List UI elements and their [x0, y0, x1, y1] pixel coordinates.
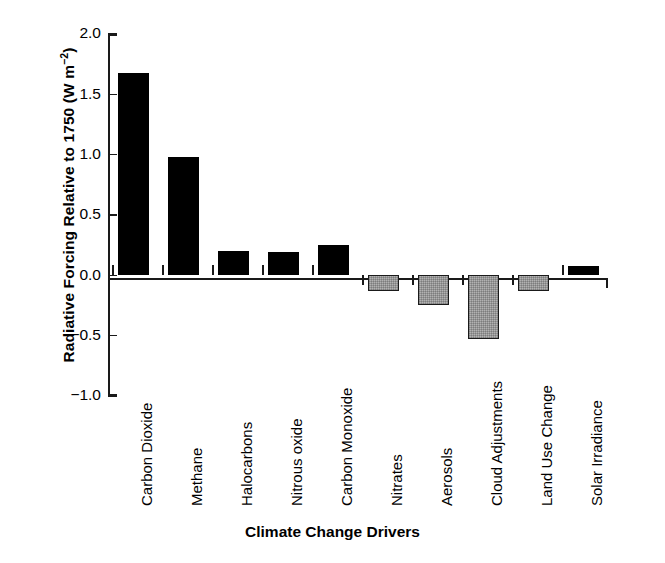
bar-carbon-monoxide: [318, 245, 349, 275]
bar-land-use-change: [518, 275, 549, 291]
y-axis-tick: 2.0: [108, 33, 117, 35]
x-axis-tick-label: Carbon Dioxide: [139, 403, 154, 506]
y-axis-tick-label: 1.0: [41, 143, 101, 165]
x-axis-tick: [412, 275, 414, 285]
chart-figure: Radiative Forcing Relative to 1750 (W m−…: [0, 0, 665, 563]
x-axis-tick: [362, 275, 364, 285]
x-axis-tick: [312, 265, 314, 275]
x-axis-tick-label: Halocarbons: [239, 422, 254, 506]
x-axis-tick: [262, 265, 264, 275]
x-axis-tick-label: Solar Irradiance: [589, 400, 604, 506]
y-axis-title-exponent: −2: [58, 53, 70, 65]
x-axis-tick-label: Nitrates: [389, 454, 404, 506]
y-axis-tick: 1.0: [108, 154, 117, 156]
bar-cloud-adjustments: [468, 275, 499, 339]
bar-halocarbons: [218, 251, 249, 275]
x-axis-tick-label: Nitrous oxide: [289, 418, 304, 506]
x-axis-tick: [462, 275, 464, 285]
bar-methane: [168, 157, 199, 275]
x-axis-tick-label: Carbon Monoxide: [339, 388, 354, 506]
y-axis-tick-label: 1.5: [41, 83, 101, 105]
y-axis-tick: −1.0: [108, 395, 117, 397]
y-axis-tick: 1.5: [108, 94, 117, 96]
y-axis-tick-label: −1.0: [41, 384, 101, 406]
x-axis-tick: [562, 265, 564, 275]
x-axis-tick: [512, 275, 514, 285]
bar-aerosols: [418, 275, 449, 305]
plot-area: 2.01.51.00.50.0−0.5−1.0 Carbon DioxideMe…: [108, 34, 608, 396]
x-axis-tick-label: Aerosols: [439, 448, 454, 506]
x-axis-tick-label: Cloud Adjustments: [489, 381, 504, 506]
x-axis-right-cap: [606, 278, 608, 288]
bar-nitrous-oxide: [268, 252, 299, 275]
bar-nitrates: [368, 275, 399, 291]
bar-solar-irradiance: [568, 266, 599, 276]
x-axis-tick: [212, 265, 214, 275]
x-axis-tick: [112, 265, 114, 275]
y-axis-tick: −0.5: [108, 335, 117, 337]
y-axis-tick: 0.5: [108, 214, 117, 216]
bar-carbon-dioxide: [118, 73, 149, 276]
x-axis-tick: [162, 265, 164, 275]
x-axis-tick-label: Land Use Change: [539, 385, 554, 506]
x-axis-tick-label: Methane: [189, 448, 204, 506]
y-axis-tick-label: −0.5: [41, 324, 101, 346]
y-axis-title-close: ): [60, 48, 77, 53]
y-axis-tick-label: 2.0: [41, 22, 101, 44]
y-axis-tick-label: 0.5: [41, 203, 101, 225]
x-axis-title: Climate Change Drivers: [0, 523, 665, 541]
y-axis-tick-label: 0.0: [41, 264, 101, 286]
